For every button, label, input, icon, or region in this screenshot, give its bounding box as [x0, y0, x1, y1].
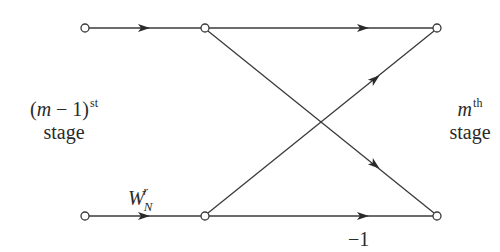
- twiddle-sup: r: [143, 184, 148, 198]
- left-stage-index: (m − 1)st: [30, 98, 98, 120]
- right-stage-word: stage: [440, 122, 500, 142]
- right-stage-sup: th: [473, 96, 482, 110]
- arrow-icons: [138, 24, 382, 220]
- node-out-bottom: [433, 212, 441, 220]
- twiddle-sub: N: [144, 199, 153, 214]
- twiddle-factor-label: WNr: [128, 188, 148, 208]
- left-stage-word: stage: [24, 122, 104, 142]
- node-in-bottom: [81, 212, 89, 220]
- node-mid-top: [201, 24, 209, 32]
- right-stage-label: mth stage: [440, 99, 500, 142]
- node-mid-bottom: [201, 212, 209, 220]
- right-stage-index: mth: [458, 98, 483, 120]
- left-stage-sup: st: [90, 96, 98, 110]
- left-stage-label: (m − 1)st stage: [24, 99, 104, 142]
- node-out-top: [433, 24, 441, 32]
- minus-one-gain-label: −1: [348, 229, 369, 249]
- node-in-top: [81, 24, 89, 32]
- butterfly-diagram: (m − 1)st stage mth stage WNr −1: [0, 0, 500, 252]
- left-stage-base: (m − 1): [30, 98, 89, 120]
- right-stage-base: m: [458, 98, 472, 120]
